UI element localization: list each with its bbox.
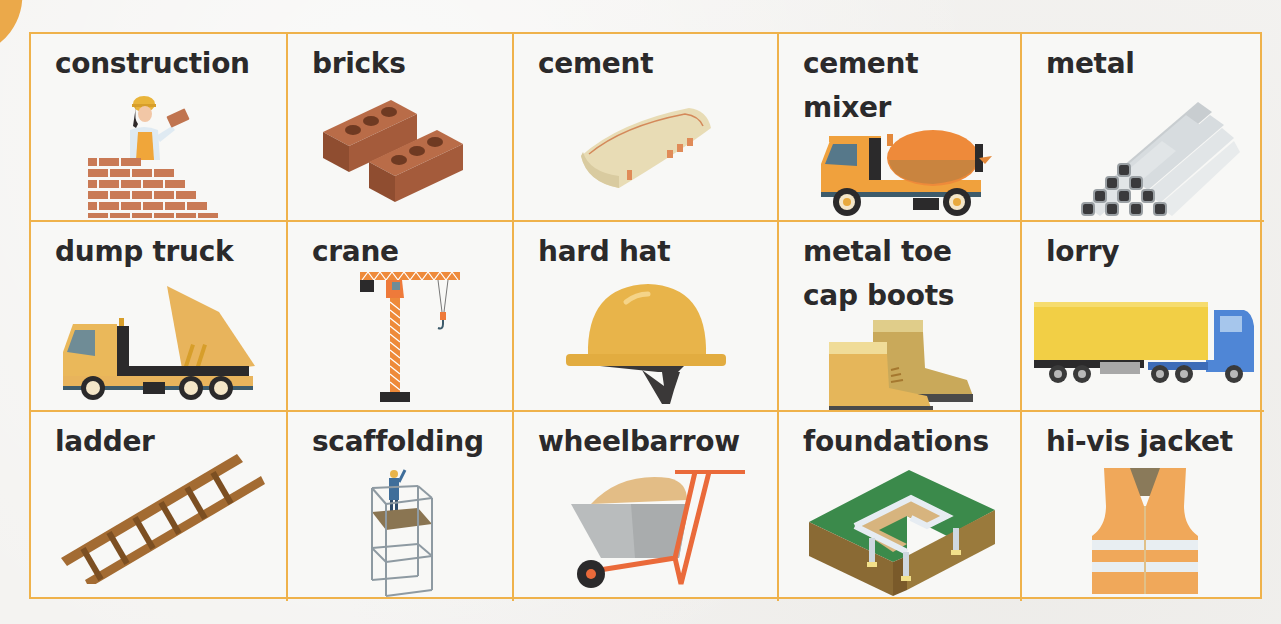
card-metal: metal <box>1022 34 1264 222</box>
card-hard-hat: hard hat <box>514 222 779 412</box>
card-label: dump truck <box>55 230 233 274</box>
card-label: cement <box>538 42 653 86</box>
card-bricks: bricks <box>288 34 514 222</box>
card-label: construction <box>55 42 250 86</box>
card-wheelbarrow: wheelbarrow <box>514 412 779 601</box>
scaffolding-icon <box>358 468 448 598</box>
ladder-icon <box>59 434 269 584</box>
card-label: foundations <box>803 420 989 464</box>
hi-vis-jacket-icon <box>1090 466 1200 596</box>
card-label: metal toe cap boots <box>803 230 954 318</box>
card-cement: cement <box>514 34 779 222</box>
card-scaffolding: scaffolding <box>288 412 514 601</box>
card-metal-toe-cap-boots: metal toe cap boots <box>779 222 1022 412</box>
bricks-icon <box>321 92 471 202</box>
wheelbarrow-icon <box>569 470 749 592</box>
cement-mixer-truck-icon <box>817 126 992 218</box>
dump-truck-icon <box>59 282 259 402</box>
card-dump-truck: dump truck <box>31 222 288 412</box>
tower-crane-icon <box>358 268 468 404</box>
hard-hat-icon <box>562 280 727 410</box>
builder-laying-bricks-icon <box>86 96 236 218</box>
card-label: cement mixer <box>803 42 918 130</box>
lorry-icon <box>1030 300 1260 388</box>
card-cement-mixer: cement mixer <box>779 34 1022 222</box>
card-label: wheelbarrow <box>538 420 740 464</box>
card-construction: construction <box>31 34 288 222</box>
card-lorry: lorry <box>1022 222 1264 412</box>
card-label: scaffolding <box>312 420 484 464</box>
vocabulary-grid: construction bricks <box>29 32 1262 599</box>
work-boots-icon <box>827 320 977 412</box>
card-label: bricks <box>312 42 406 86</box>
card-label: hard hat <box>538 230 670 274</box>
card-foundations: foundations <box>779 412 1022 601</box>
card-ladder: ladder <box>31 412 288 601</box>
card-crane: crane <box>288 222 514 412</box>
card-label: lorry <box>1046 230 1119 274</box>
foundations-icon <box>807 466 997 596</box>
cement-bag-icon <box>579 104 714 189</box>
card-label: hi-vis jacket <box>1046 420 1233 464</box>
metal-pipes-icon <box>1080 72 1240 222</box>
card-hi-vis-jacket: hi-vis jacket <box>1022 412 1264 601</box>
